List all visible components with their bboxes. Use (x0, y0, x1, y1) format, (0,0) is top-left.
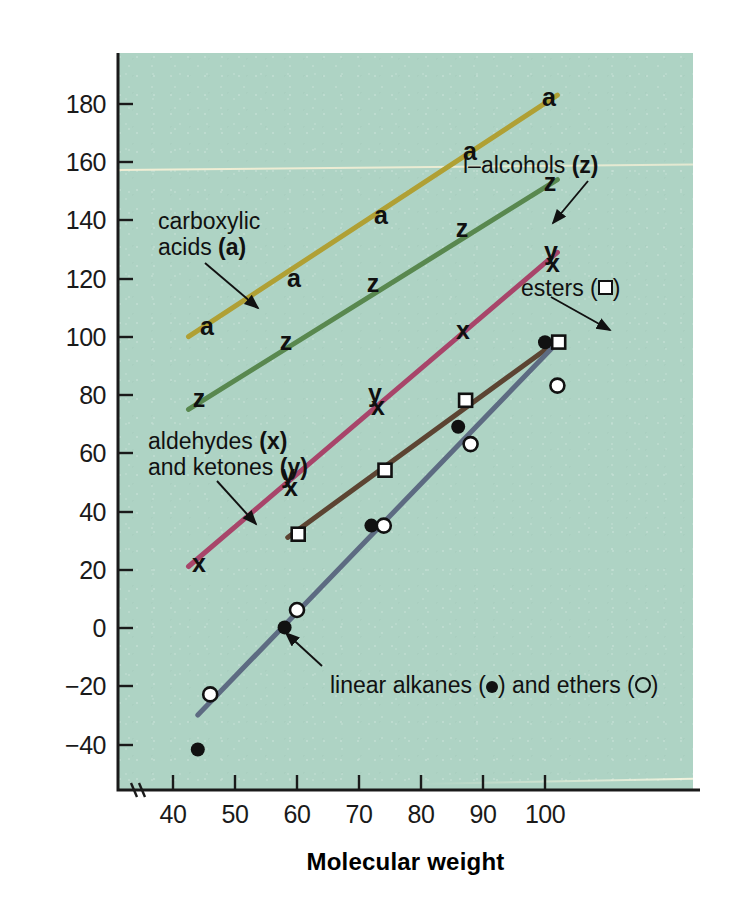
y-tick-label: 120 (40, 265, 106, 294)
text: ) and ethers ( (498, 672, 635, 698)
y-tick-label: 40 (40, 498, 106, 527)
text: esters ( (521, 275, 598, 301)
x-tick-label: 40 (160, 800, 187, 829)
open-circle-icon (635, 677, 651, 693)
x-tick-label: 90 (470, 800, 497, 829)
trendline-esters (288, 345, 552, 537)
marker-letter-z: z (544, 168, 557, 197)
chart-vector-layer (0, 0, 733, 906)
y-tick-label: 160 (40, 148, 106, 177)
marker-letter-x: x (371, 392, 385, 421)
x-tick-label: 60 (284, 800, 311, 829)
marker-letter-a: a (287, 264, 301, 293)
leader-arrow-alkanes (286, 633, 322, 666)
text: ) (613, 275, 621, 301)
y-tick-label: 140 (40, 206, 106, 235)
x-tick-label: 70 (346, 800, 373, 829)
text: and ketones (148, 454, 280, 480)
annotation-carboxylic-acids-line2: acids (a) (158, 235, 260, 261)
text: acids (158, 234, 218, 260)
marker-letter-z: z (193, 384, 206, 413)
marker-letter-x: x (456, 316, 470, 345)
open-square-icon (598, 280, 613, 295)
x-axis-title: Molecular weight (118, 848, 693, 876)
marker-letter-a: a (374, 201, 388, 230)
text-bold: (x) (259, 428, 287, 454)
text: ) (651, 672, 659, 698)
x-tick-label: 80 (408, 800, 435, 829)
y-tick-label: 60 (40, 439, 106, 468)
y-tick-label: 0 (40, 614, 106, 643)
marker-letter-a: a (200, 312, 214, 341)
annotation-1-alcohols: l–alcohols (z) (463, 153, 599, 179)
marker-letter-z: z (367, 269, 380, 298)
y-tick-label: 20 (40, 556, 106, 585)
figure-boiling-point-vs-molecular-weight: 180 160 140 120 100 80 60 40 20 0 −20 −4… (0, 0, 733, 906)
y-axis-title: Boiling point (°C) (52, 640, 80, 906)
y-tick-label: 100 (40, 323, 106, 352)
annotation-carboxylic-acids-line1: carboxylic (158, 209, 260, 235)
marker-letter-x: x (284, 473, 298, 502)
text: aldehydes (148, 428, 259, 454)
leader-arrow-esters (551, 297, 610, 330)
leader-arrow-carboxylic-acids (205, 263, 258, 308)
y-tick-label: 80 (40, 381, 106, 410)
filled-circle-icon (486, 681, 498, 693)
leader-arrow-aldehydes (217, 481, 256, 524)
marker-letter-z: z (456, 214, 469, 243)
annotation-aldehydes-line1: aldehydes (x) (148, 429, 308, 455)
text-bold: (a) (218, 234, 246, 260)
y-tick-label: 180 (40, 90, 106, 119)
text-bold: (z) (572, 152, 599, 178)
marker-letter-x: x (546, 249, 560, 278)
annotation-carboxylic-acids: carboxylic acids (a) (158, 209, 260, 261)
x-tick-label: 100 (525, 800, 565, 829)
x-tick-label: 50 (222, 800, 249, 829)
x-axis-ticks (173, 775, 545, 790)
annotation-esters: esters () (521, 276, 620, 302)
marker-letter-a: a (542, 83, 556, 112)
marker-letter-a: a (463, 137, 477, 166)
leader-arrow-alcohols (553, 181, 588, 223)
annotation-linear-alkanes-ethers: linear alkanes () and ethers () (330, 673, 658, 699)
marker-letter-z: z (280, 327, 293, 356)
text: linear alkanes ( (330, 672, 486, 698)
marker-letter-x: x (192, 549, 206, 578)
y-axis-ticks (118, 104, 133, 745)
